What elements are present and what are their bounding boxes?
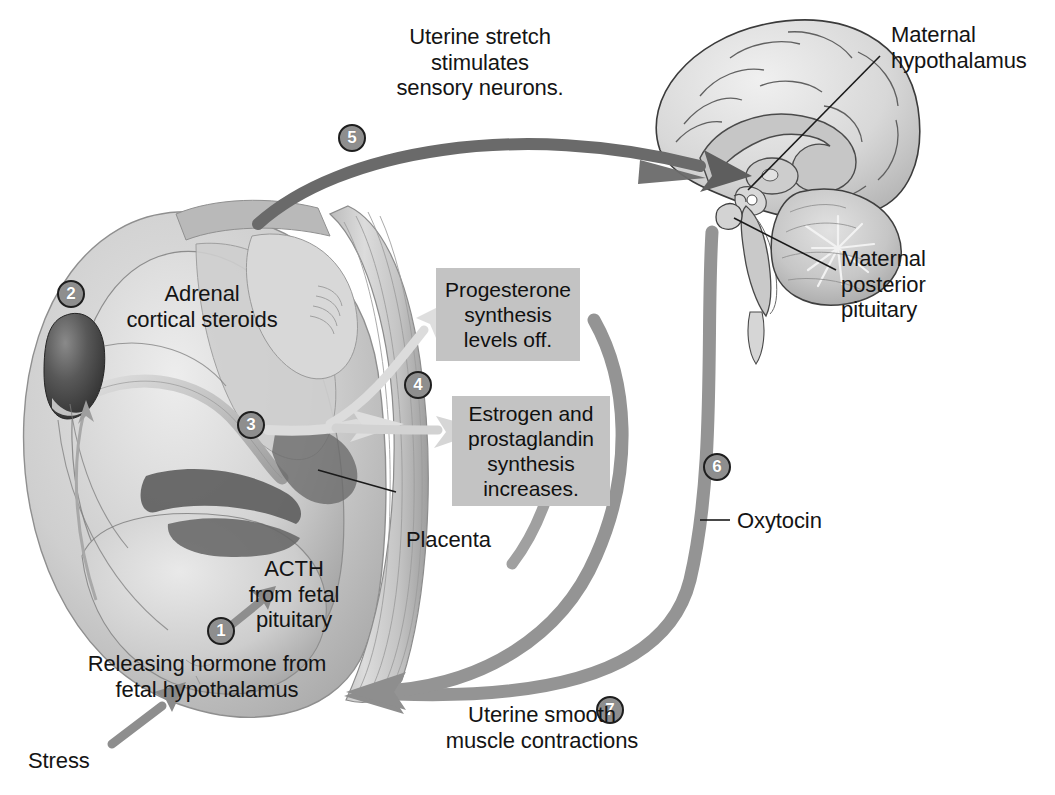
label-releasing-hormone: Releasing hormone from fetal hypothalamu…	[66, 651, 348, 702]
label-oxytocin: Oxytocin	[737, 508, 867, 534]
label-placenta: Placenta	[406, 527, 536, 553]
step-marker-5: 5	[338, 124, 366, 152]
label-uterine-contractions: Uterine smooth muscle contractions	[412, 702, 672, 753]
step-marker-2: 2	[57, 280, 85, 308]
label-acth: ACTH from fetal pituitary	[218, 556, 370, 633]
label-maternal-posterior-pituitary: Maternal posterior pituitary	[841, 246, 991, 323]
label-stress: Stress	[28, 748, 138, 774]
label-adrenal-cortical-steroids: Adrenal cortical steroids	[93, 281, 311, 332]
figure-canvas: 1 2 3 4 5 6 7 Uterine stretch stimulates…	[0, 0, 1055, 795]
step-marker-6: 6	[703, 453, 731, 481]
step-marker-4: 4	[404, 371, 432, 399]
label-maternal-hypothalamus: Maternal hypothalamus	[891, 22, 1051, 73]
label-uterine-stretch: Uterine stretch stimulates sensory neuro…	[370, 24, 590, 101]
textbox-progesterone: Progesterone synthesis levels off.	[436, 268, 580, 361]
textbox-estrogen-prostaglandin: Estrogen and prostaglandin synthesis inc…	[452, 396, 610, 506]
arrow-step-5	[258, 144, 752, 224]
step-marker-3: 3	[237, 411, 265, 439]
